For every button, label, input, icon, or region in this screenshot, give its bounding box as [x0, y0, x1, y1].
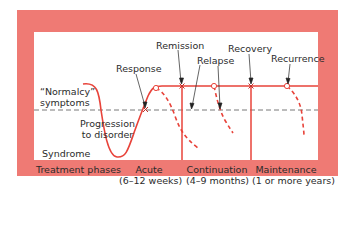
normalcy-label-line1: “Normalcy”: [40, 86, 95, 97]
normalcy-label-line2: symptoms: [40, 97, 95, 108]
phase-maintenance-duration: (1 or more years): [252, 175, 320, 186]
syndrome-label: Syndrome: [42, 148, 90, 159]
relapse-curve-2: [214, 86, 233, 133]
relapse-marker-2: [211, 83, 216, 88]
response-onset-marker: [153, 85, 158, 90]
recurrence-marker: [284, 83, 289, 88]
phase-maintenance: Maintenance (1 or more years): [252, 164, 320, 186]
phase-acute: Acute (6–12 weeks): [119, 164, 179, 186]
normalcy-label: “Normalcy” symptoms: [40, 86, 95, 108]
progression-label: Progression to disorder: [80, 118, 135, 140]
phase-maintenance-name: Maintenance: [252, 164, 320, 175]
phase-acute-name: Acute: [119, 164, 179, 175]
progression-label-line2: to disorder: [80, 129, 135, 140]
recovery-label: Recovery: [228, 43, 272, 54]
response-x-marker: [143, 107, 148, 112]
recurrence-curve: [287, 86, 304, 136]
remission-label: Remission: [156, 40, 204, 51]
phase-acute-duration: (6–12 weeks): [119, 175, 179, 186]
treatment-phases-title: Treatment phases: [36, 164, 121, 175]
recurrence-label: Recurrence: [271, 53, 325, 64]
phase-continuation: Continuation (4–9 months): [186, 164, 248, 186]
relapse-curve-1: [156, 88, 198, 148]
phase-continuation-duration: (4–9 months): [186, 175, 248, 186]
relapse-label: Relapse: [197, 55, 234, 66]
response-label: Response: [116, 63, 162, 74]
progression-label-line1: Progression: [80, 118, 135, 129]
phase-continuation-name: Continuation: [186, 164, 248, 175]
